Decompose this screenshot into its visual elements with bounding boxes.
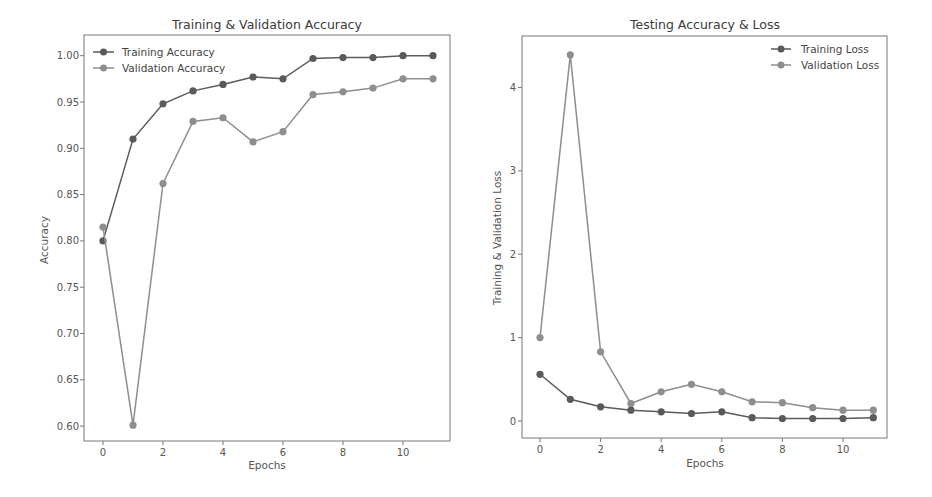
loss-y-label: Training & Validation Loss: [491, 171, 503, 307]
data-point: [369, 85, 376, 92]
series-line: [103, 56, 433, 241]
y-tick-label: 0.90: [57, 143, 79, 154]
data-point: [399, 52, 406, 59]
data-point: [279, 75, 286, 82]
data-point: [839, 407, 846, 414]
y-tick-label: 3: [510, 165, 516, 176]
x-tick-label: 0: [537, 444, 543, 455]
data-point: [718, 408, 725, 415]
x-tick-label: 4: [220, 447, 226, 458]
loss-x-label: Epochs: [686, 457, 724, 469]
accuracy-x-ticks: 0246810: [100, 441, 410, 458]
y-tick-label: 4: [510, 82, 516, 93]
data-point: [129, 422, 136, 429]
data-point: [809, 415, 816, 422]
data-point: [536, 371, 543, 378]
loss-chart: Testing Accuracy & Loss 01234 0246810 Ep…: [491, 17, 887, 469]
accuracy-series: [99, 52, 436, 429]
y-tick-label: 0.65: [57, 374, 79, 385]
y-tick-label: 0.80: [57, 235, 79, 246]
data-point: [399, 75, 406, 82]
data-point: [339, 88, 346, 95]
validation-loss-marker-icon: [778, 62, 785, 69]
x-tick-label: 0: [100, 447, 106, 458]
data-point: [429, 75, 436, 82]
data-point: [779, 415, 786, 422]
training-marker-icon: [100, 49, 107, 56]
data-point: [536, 334, 543, 341]
data-point: [567, 396, 574, 403]
data-point: [839, 415, 846, 422]
data-point: [870, 414, 877, 421]
y-tick-label: 0.85: [57, 189, 79, 200]
data-point: [658, 388, 665, 395]
data-point: [597, 403, 604, 410]
data-point: [809, 404, 816, 411]
figure-canvas: Training & Validation Accuracy 0.600.650…: [0, 0, 932, 497]
accuracy-x-label: Epochs: [248, 459, 286, 471]
y-tick-label: 2: [510, 249, 516, 260]
data-point: [627, 400, 634, 407]
data-point: [159, 100, 166, 107]
x-tick-label: 10: [397, 447, 410, 458]
y-tick-label: 0.60: [57, 421, 79, 432]
legend-training-accuracy: Training Accuracy: [121, 46, 215, 58]
accuracy-legend: Training Accuracy Validation Accuracy: [93, 46, 225, 74]
x-tick-label: 4: [658, 444, 664, 455]
data-point: [339, 54, 346, 61]
series-line: [540, 55, 873, 410]
series-line: [540, 374, 873, 418]
y-tick-label: 1: [510, 332, 516, 343]
x-tick-label: 8: [779, 444, 785, 455]
loss-legend: Training Loss Validation Loss: [771, 43, 879, 71]
data-point: [219, 114, 226, 121]
y-tick-label: 0: [510, 416, 516, 427]
y-tick-label: 0.70: [57, 328, 79, 339]
x-tick-label: 2: [160, 447, 166, 458]
data-point: [249, 73, 256, 80]
y-tick-label: 1.00: [57, 50, 79, 61]
data-point: [309, 91, 316, 98]
loss-x-ticks: 0246810: [537, 438, 850, 455]
x-tick-label: 2: [597, 444, 603, 455]
data-point: [658, 408, 665, 415]
data-point: [249, 138, 256, 145]
data-point: [749, 398, 756, 405]
data-point: [99, 223, 106, 230]
data-point: [189, 118, 196, 125]
data-point: [429, 52, 436, 59]
data-point: [219, 81, 226, 88]
loss-y-ticks: 01234: [510, 82, 522, 427]
accuracy-chart-title: Training & Validation Accuracy: [171, 17, 362, 32]
training-loss-marker-icon: [778, 46, 785, 53]
x-tick-label: 6: [280, 447, 286, 458]
accuracy-y-label: Accuracy: [38, 216, 50, 264]
data-point: [627, 407, 634, 414]
x-tick-label: 10: [837, 444, 850, 455]
legend-training-loss: Training Loss: [800, 43, 869, 55]
legend-validation-accuracy: Validation Accuracy: [122, 62, 225, 74]
data-point: [309, 55, 316, 62]
x-tick-label: 6: [719, 444, 725, 455]
loss-chart-title: Testing Accuracy & Loss: [629, 17, 780, 32]
data-point: [688, 381, 695, 388]
loss-plot-frame: [522, 36, 887, 438]
data-point: [779, 399, 786, 406]
data-point: [567, 51, 574, 58]
data-point: [279, 128, 286, 135]
data-point: [129, 135, 136, 142]
data-point: [718, 388, 725, 395]
data-point: [688, 410, 695, 417]
data-point: [159, 180, 166, 187]
data-point: [870, 407, 877, 414]
y-tick-label: 0.95: [57, 97, 79, 108]
validation-marker-icon: [100, 65, 107, 72]
accuracy-chart: Training & Validation Accuracy 0.600.650…: [38, 17, 450, 471]
accuracy-y-ticks: 0.600.650.700.750.800.850.900.951.00: [57, 50, 84, 431]
data-point: [597, 348, 604, 355]
data-point: [749, 414, 756, 421]
legend-validation-loss: Validation Loss: [801, 59, 879, 71]
loss-series: [536, 51, 877, 422]
data-point: [369, 54, 376, 61]
x-tick-label: 8: [340, 447, 346, 458]
